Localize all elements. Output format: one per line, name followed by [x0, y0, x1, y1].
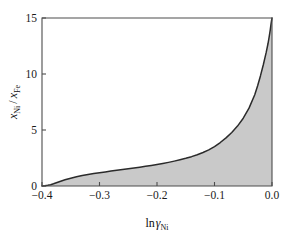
x-tick-label: −0.3 — [89, 189, 110, 201]
chart-svg: −0.4−0.3−0.2−0.10.0 051015 lnγNi xNi/xFe — [0, 0, 292, 239]
x-tick-label: 0.0 — [265, 189, 280, 201]
y-tick-label: 0 — [31, 180, 37, 192]
x-tick-label: −0.1 — [204, 189, 225, 201]
chart-figure: −0.4−0.3−0.2−0.10.0 051015 lnγNi xNi/xFe — [0, 0, 292, 239]
y-tick-labels: 051015 — [26, 12, 38, 192]
area-fill — [42, 18, 272, 186]
y-tick-label: 10 — [26, 68, 38, 80]
y-tick-label: 5 — [31, 124, 37, 136]
x-tick-label: −0.2 — [147, 189, 168, 201]
x-axis-title: lnγNi — [145, 216, 169, 232]
plot-area-container: −0.4−0.3−0.2−0.10.0 051015 lnγNi xNi/xFe — [0, 0, 292, 239]
y-tick-label: 15 — [26, 12, 38, 24]
x-tick-labels: −0.4−0.3−0.2−0.10.0 — [32, 189, 280, 201]
y-axis-title: xNi/xFe — [6, 85, 22, 120]
